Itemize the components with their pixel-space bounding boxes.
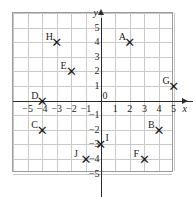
- point-marker-icon: ✕: [95, 138, 106, 151]
- y-tick-label: 3: [95, 52, 100, 62]
- x-tick-label: −2: [66, 104, 77, 114]
- point-marker-icon: ✕: [154, 123, 165, 136]
- point-marker-icon: ✕: [37, 123, 48, 136]
- y-tick-label: 4: [95, 37, 100, 47]
- y-axis: [101, 18, 102, 197]
- x-tick-label: 2: [127, 104, 132, 114]
- x-tick-label: −3: [51, 104, 62, 114]
- x-tick-label: 4: [157, 104, 162, 114]
- point-label: D: [31, 91, 38, 101]
- point-label: H: [46, 32, 53, 42]
- point-label: A: [119, 32, 126, 42]
- point-label: C: [31, 120, 38, 130]
- gridline-horizontal: [13, 57, 172, 58]
- gridline-vertical: [86, 13, 87, 171]
- y-axis-label: y: [94, 8, 98, 18]
- x-tick-label: 5: [171, 104, 176, 114]
- point-label: G: [163, 76, 170, 86]
- gridline-vertical: [144, 13, 145, 171]
- y-tick-label: 1: [95, 81, 100, 91]
- x-tick-label: 1: [113, 104, 118, 114]
- gridline-vertical: [71, 13, 72, 171]
- y-axis-arrow: [98, 9, 104, 15]
- x-tick-label: −5: [22, 104, 33, 114]
- point-marker-icon: ✕: [139, 153, 150, 166]
- point-label: I: [106, 133, 109, 143]
- origin-label: 0: [103, 91, 108, 101]
- gridline-horizontal: [13, 42, 172, 43]
- x-axis-label: x: [183, 104, 187, 114]
- y-tick-label: 2: [95, 66, 100, 76]
- y-tick-label: −2: [89, 125, 100, 135]
- point-label: B: [148, 120, 155, 130]
- y-tick-label: −5: [89, 169, 100, 179]
- gridline-horizontal: [13, 13, 172, 14]
- gridline-horizontal: [13, 71, 172, 72]
- gridline-vertical: [13, 13, 14, 171]
- point-marker-icon: ✕: [66, 65, 77, 78]
- point-label: J: [74, 149, 78, 159]
- gridline-vertical: [28, 13, 29, 171]
- point-label: E: [60, 61, 66, 71]
- coordinate-plane-figure: x y −5−4−3−2−112345 54321−1−2−3−4−5 0 ✕A…: [0, 0, 193, 197]
- gridline-vertical: [159, 13, 160, 171]
- grid-area: x y −5−4−3−2−112345 54321−1−2−3−4−5 0 ✕A…: [12, 12, 173, 172]
- x-tick-label: 3: [142, 104, 147, 114]
- gridline-vertical: [115, 13, 116, 171]
- y-tick-label: 5: [95, 23, 100, 33]
- point-label: F: [133, 149, 139, 159]
- point-marker-icon: ✕: [81, 153, 92, 166]
- gridline-horizontal: [13, 86, 172, 87]
- gridline-vertical: [42, 13, 43, 171]
- y-tick-label: −1: [89, 110, 100, 120]
- gridline-horizontal: [13, 28, 172, 29]
